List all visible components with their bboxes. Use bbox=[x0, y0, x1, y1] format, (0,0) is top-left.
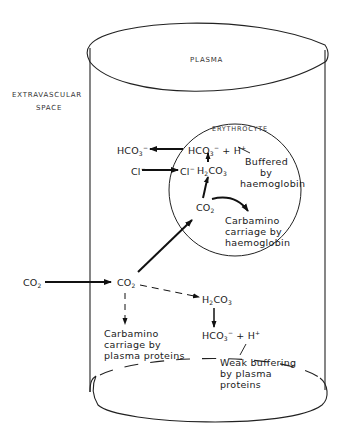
arrow-plasma-co2-to-rbc bbox=[138, 220, 192, 272]
note-carbamino-hb-line3: haemoglobin bbox=[225, 237, 290, 248]
note-weak-buffering-line3: proteins bbox=[220, 379, 261, 390]
leader-h-weak bbox=[240, 344, 246, 355]
hco3-rbc: HCO3− + H+ bbox=[188, 145, 246, 157]
hco3-extracellular: HCO3− bbox=[117, 145, 148, 157]
extravascular-label-line2: SPACE bbox=[36, 105, 62, 112]
h2co3-plasma: H2CO3 bbox=[202, 295, 232, 306]
co2-plasma: CO2 bbox=[117, 278, 136, 289]
cl-rbc: Cl− bbox=[180, 166, 195, 177]
cl-extracellular: Cl− bbox=[131, 166, 146, 177]
note-carbamino-pp-line1: Carbamino bbox=[104, 328, 159, 339]
co2-rbc: CO2 bbox=[196, 203, 215, 214]
note-buffered-line3: haemoglobin bbox=[240, 178, 305, 189]
extravascular-label-line1: EXTRAVASCULAR bbox=[12, 92, 82, 99]
note-weak-buffering-line1: Weak buffering bbox=[220, 357, 296, 368]
note-carbamino-pp-line3: plasma proteins bbox=[104, 350, 185, 361]
note-buffered-line2: by bbox=[260, 167, 272, 178]
h2co3-rbc: H2CO3 bbox=[197, 166, 227, 177]
plasma-label: PLASMA bbox=[190, 57, 223, 64]
erythrocyte-label: ERYTHROCYTE bbox=[212, 126, 268, 133]
arrow-co2-to-carbamino-hb bbox=[212, 198, 248, 211]
diagram-graphics bbox=[0, 0, 341, 446]
hco3-plasma: HCO3− + H+ bbox=[202, 330, 260, 342]
note-buffered-line1: Buffered bbox=[245, 156, 288, 167]
note-carbamino-hb-line1: Carbamino bbox=[225, 215, 280, 226]
note-carbamino-hb-line2: carriage by bbox=[225, 226, 282, 237]
note-carbamino-pp-line2: carriage by bbox=[104, 339, 161, 350]
co2-extravascular: CO2 bbox=[23, 278, 42, 289]
note-weak-buffering-line2: by plasma bbox=[220, 368, 272, 379]
cylinder-bottom-front bbox=[90, 376, 327, 422]
arrow-co2-to-h2co3-plasma bbox=[140, 285, 199, 297]
arrow-co2-to-h2co3 bbox=[203, 177, 208, 198]
